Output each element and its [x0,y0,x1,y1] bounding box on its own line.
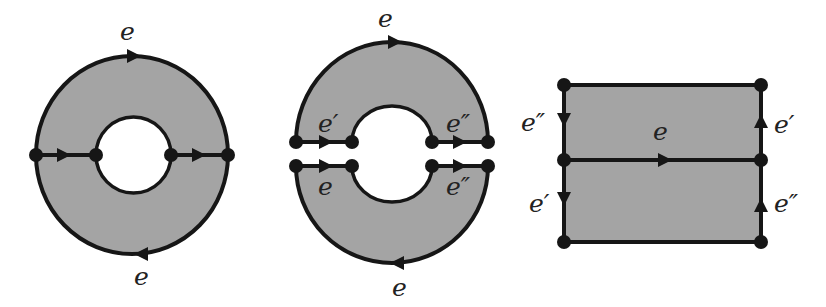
figure-cut-annulus: e e′ e″ e e″ e [289,4,495,302]
label-rect-right-lower: e″ [774,189,799,218]
vertex-dot [345,135,359,149]
vertex-dot [425,159,439,173]
vertex-dot [557,153,571,167]
vertex-dot [481,135,495,149]
vertex-dot [557,78,571,92]
vertex-dot [754,78,768,92]
vertex-dot [289,159,303,173]
label-rect-middle: e [653,117,668,146]
label-rect-right-upper: e′ [774,110,795,139]
label-rect-left-lower: e′ [529,189,550,218]
label-cut-upper-left: e′ [318,109,339,138]
label-cut-lower-left: e [318,172,333,201]
label-annulus-top: e [120,17,135,46]
vertex-dot [29,148,43,162]
vertex-dot [425,135,439,149]
vertex-dot [754,153,768,167]
label-cut-bottom: e [392,273,407,302]
vertex-dot [221,148,235,162]
diagram-canvas: e e e e′ e″ e e″ [0,0,826,307]
label-cut-top: e [378,4,393,33]
figure-annulus: e e [29,17,235,291]
vertex-dot [481,159,495,173]
vertex-dot [289,135,303,149]
vertex-dot [754,235,768,249]
label-annulus-bottom: e [134,262,149,291]
label-cut-lower-right: e″ [446,172,471,201]
annulus-inner-hole [96,117,171,193]
label-cut-upper-right: e″ [446,109,471,138]
figure-rectangle: e″ e′ e e′ e″ [521,78,799,249]
label-rect-left-upper: e″ [521,108,546,137]
vertex-dot [89,148,103,162]
vertex-dot [345,159,359,173]
vertex-dot [557,235,571,249]
vertex-dot [164,148,178,162]
